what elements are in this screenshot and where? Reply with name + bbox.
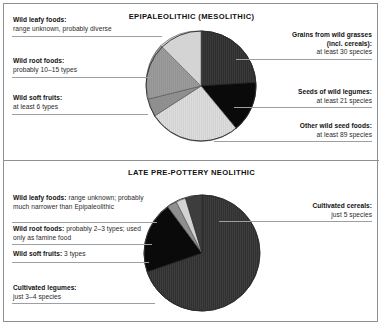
leader-wild-leafy-foods	[12, 222, 157, 223]
panel-late-pre-pottery-neolithic: LATE PRE-POTTERY NEOLITHIC	[4, 160, 379, 323]
label-wild-root-foods: Wild root foods: probably 2–3 types; use…	[13, 225, 153, 242]
leader-wild-root-foods	[12, 77, 152, 78]
leader-cultivated-cereals	[219, 221, 372, 222]
label-value: 3 types	[64, 250, 86, 257]
figure-frame: EPIPALEOLITHIC (MESOLITHIC)	[3, 3, 378, 322]
leader-other-wild-seed-foods	[214, 141, 372, 142]
label-seeds-of-wild-legumes: Seeds of wild legumes: at least 21 speci…	[242, 88, 372, 105]
leader-wild-leafy-foods	[12, 36, 162, 37]
panel-epipaleolithic: EPIPALEOLITHIC (MESOLITHIC)	[4, 4, 379, 160]
label-title: Wild soft fruits:	[13, 250, 62, 257]
label-wild-leafy-foods: Wild leafy foods: range unknown, probabl…	[13, 16, 153, 33]
pie-svg-epipaleolithic	[145, 30, 257, 142]
label-title: Wild soft fruits:	[13, 94, 62, 101]
label-value: at least 30 species	[242, 48, 372, 57]
label-wild-root-foods: Wild root foods: probably 10–15 types	[13, 57, 143, 74]
leader-seeds-of-wild-legumes	[234, 107, 372, 108]
label-title: Wild leafy foods:	[13, 16, 67, 23]
label-value: probably 10–15 types	[13, 66, 143, 75]
leader-wild-soft-fruits	[12, 114, 148, 115]
label-value: just 5 species	[242, 211, 372, 220]
label-title: Wild root foods:	[13, 57, 64, 64]
leader-cultivated-legumes	[12, 303, 155, 304]
pie-chart-epipaleolithic	[145, 30, 257, 142]
label-title: Cultivated legumes:	[13, 284, 77, 291]
label-value: at least 21 species	[242, 97, 372, 106]
label-cultivated-cereals: Cultivated cereals: just 5 species	[242, 202, 372, 219]
label-title: Wild leafy foods:	[13, 194, 67, 201]
leader-wild-root-foods	[12, 244, 152, 245]
label-value: at least 89 species	[242, 131, 372, 140]
label-value: at least 6 types	[13, 103, 143, 112]
label-title: Other wild seed foods:	[300, 122, 372, 129]
label-wild-leafy-foods: Wild leafy foods: range unknown; probabl…	[13, 194, 156, 211]
label-wild-soft-fruits: Wild soft fruits: 3 types	[13, 250, 153, 259]
label-title: Cultivated cereals:	[312, 202, 372, 209]
label-title: Seeds of wild legumes:	[298, 88, 372, 95]
label-title-line2: (incl. cereals):	[242, 40, 372, 49]
panel-title-late-pre-pottery-neolithic: LATE PRE-POTTERY NEOLITHIC	[4, 168, 379, 177]
label-grains-from-wild-grasses: Grains from wild grasses (incl. cereals)…	[242, 31, 372, 57]
label-wild-soft-fruits: Wild soft fruits: at least 6 types	[13, 94, 143, 111]
leader-wild-soft-fruits	[12, 262, 149, 263]
label-title: Wild root foods:	[13, 225, 64, 232]
leader-grains-from-wild-grasses	[236, 59, 372, 60]
label-cultivated-legumes: Cultivated legumes: just 3–4 species	[13, 284, 153, 301]
label-value: just 3–4 species	[13, 293, 153, 302]
label-value: range unknown, probably diverse	[13, 25, 153, 34]
figure-root: EPIPALEOLITHIC (MESOLITHIC)	[0, 0, 381, 327]
label-title: Grains from wild grasses	[292, 31, 372, 38]
label-other-wild-seed-foods: Other wild seed foods: at least 89 speci…	[242, 122, 372, 139]
